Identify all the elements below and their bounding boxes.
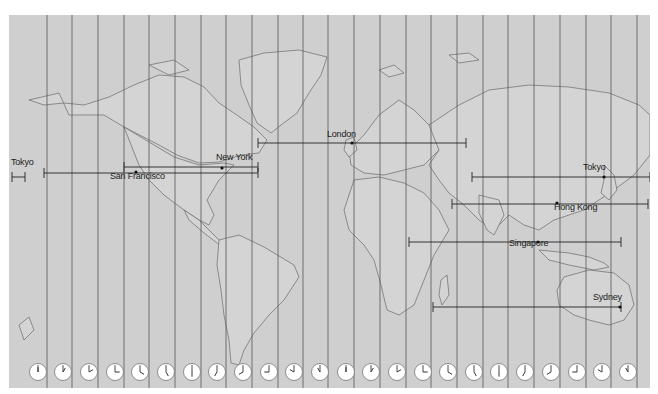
clock-icon [209,364,226,381]
clock-icon [491,364,508,381]
city-marker [602,175,605,178]
clock-icon [517,364,534,381]
clock-icon [569,364,586,381]
clock-icon [620,364,637,381]
clock-icon [415,364,432,381]
clock-icon [107,364,124,381]
clock-icon [81,364,98,381]
clock-icon [235,364,252,381]
clock-icon [440,364,457,381]
clock-icon [312,364,329,381]
city-marker [618,305,621,308]
clock-icon [594,364,611,381]
clock-icon [158,364,175,381]
city-label: Singapore [509,238,548,248]
city-label: San Francisco [110,171,165,181]
clock-icon [184,364,201,381]
clock-icon [55,364,72,381]
city-label: Hong Kong [554,202,597,212]
clock-icon [389,364,406,381]
city-label: London [327,129,356,139]
clock-icon [286,364,303,381]
city-marker [350,141,353,144]
clock-row [30,364,637,381]
clock-icon [261,364,278,381]
clock-icon [466,364,483,381]
city-label: Tokyo [583,162,606,172]
clock-icon [132,364,149,381]
clock-icon [30,364,47,381]
city-label: New York [216,152,252,162]
city-marker [220,166,223,169]
route-tokyo-wrap-left [12,172,25,182]
city-label: Tokyo [11,157,34,167]
world-time-zone-map: TokyoSan FranciscoNew YorkLondonTokyoHon… [9,15,650,388]
city-label: Sydney [593,292,622,302]
clock-icon [543,364,560,381]
clock-icon [338,364,355,381]
clock-icon [363,364,380,381]
